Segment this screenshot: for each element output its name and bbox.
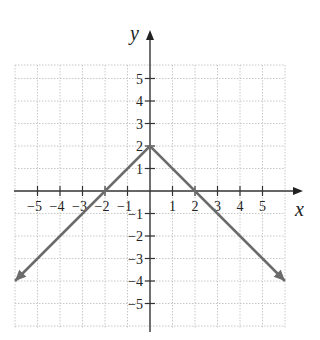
y-axis-arrow-icon <box>146 30 154 40</box>
x-axis-arrow-icon <box>293 187 303 195</box>
x-tick-label: 5 <box>259 199 266 214</box>
axes <box>14 30 303 332</box>
x-tick-label: −4 <box>50 199 65 214</box>
y-tick-label: 1 <box>136 162 143 177</box>
x-tick-label: −5 <box>27 199 42 214</box>
y-tick-label: −4 <box>128 274 143 289</box>
x-axis-label: x <box>294 198 304 220</box>
x-tick-label: 2 <box>192 199 199 214</box>
y-tick-label: 3 <box>136 117 143 132</box>
y-tick-label: 4 <box>136 94 143 109</box>
y-tick-label: −5 <box>128 297 143 312</box>
x-tick-label: 4 <box>237 199 244 214</box>
y-tick-label: −2 <box>128 229 143 244</box>
coordinate-plane: −5−4−3−2−11234554321−1−2−3−4−5 x y <box>0 0 320 340</box>
x-tick-label: −2 <box>95 199 110 214</box>
y-tick-label: 2 <box>136 139 143 154</box>
y-axis-label: y <box>128 22 139 45</box>
y-tick-label: −3 <box>128 252 143 267</box>
y-tick-label: 5 <box>136 72 143 87</box>
y-tick-label: −1 <box>128 207 143 222</box>
x-tick-label: 1 <box>169 199 176 214</box>
